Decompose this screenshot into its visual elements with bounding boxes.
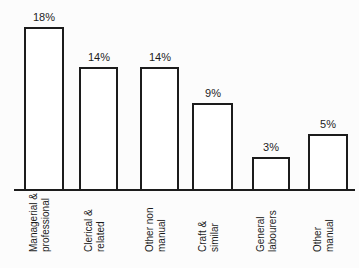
- category-label-line: Other: [312, 228, 324, 252]
- bar-general-labourers: [252, 157, 290, 191]
- category-label-line: Other non: [144, 228, 156, 252]
- value-label-managerial: 18%: [33, 11, 55, 24]
- value-label-othernon: 14%: [149, 51, 171, 64]
- category-label-line: Craft &: [197, 228, 209, 252]
- bar-chart: 18% 14% 14% 9% 3% 5% Managerial & profes…: [0, 0, 359, 268]
- bar-other-manual: [308, 134, 348, 191]
- value-label-othermanual: 5%: [320, 118, 336, 131]
- category-label-line: manual: [324, 228, 336, 252]
- bar-other-non-manual: [140, 67, 179, 191]
- category-label-line: General: [255, 228, 267, 252]
- value-label-general: 3%: [263, 141, 279, 154]
- bar-craft-similar: [192, 103, 233, 191]
- x-axis-line: [14, 189, 355, 191]
- category-label-line: manual: [156, 228, 168, 252]
- category-label-line: labourers: [267, 228, 279, 252]
- bar-clerical-related: [79, 67, 118, 191]
- category-label-line: professional: [40, 228, 52, 252]
- value-label-craft: 9%: [205, 87, 221, 100]
- category-label-line: Clerical &: [83, 228, 95, 252]
- category-label-line: Managerial &: [28, 228, 40, 252]
- bar-managerial-professional: [24, 27, 64, 191]
- category-label-line: related: [95, 228, 107, 252]
- value-label-clerical: 14%: [88, 51, 110, 64]
- category-label-line: similar: [209, 228, 221, 252]
